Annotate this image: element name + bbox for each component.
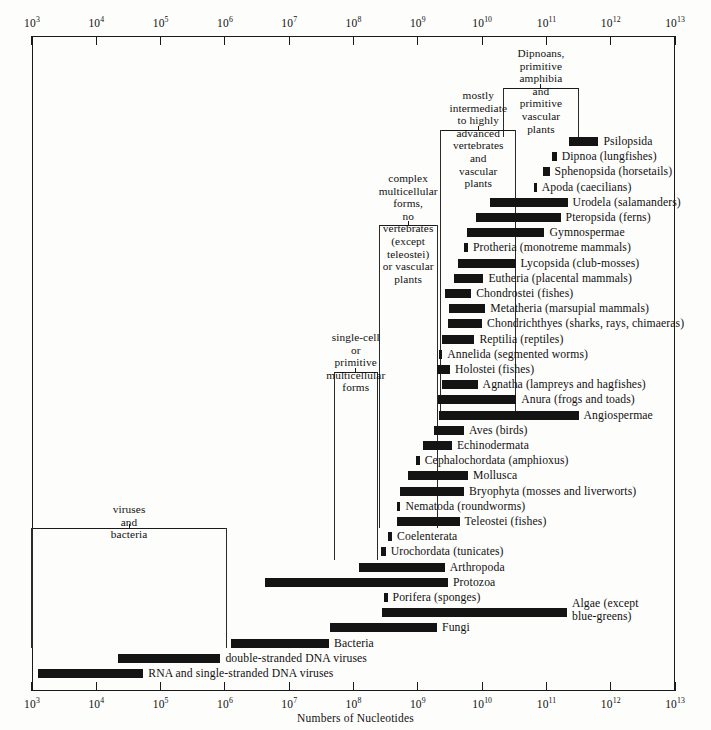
taxon-label: Gymnospermae [549, 227, 624, 238]
axis-label-bottom-1e10: 1010 [472, 697, 492, 710]
range-bar [434, 426, 464, 435]
bracket-stem-right [226, 528, 227, 648]
taxon-label: Bacteria [334, 638, 374, 649]
bracket-label: mostly intermediate to highly advanced v… [449, 89, 507, 190]
axis-label-top-1e6: 106 [217, 16, 233, 29]
axis-label-top-1e5: 105 [153, 16, 169, 29]
axis-label-top-1e9: 109 [410, 16, 426, 29]
taxon-label: Arthropoda [450, 562, 505, 573]
axis-label-top-1e8: 108 [346, 16, 362, 29]
taxon-label: Angiospermae [584, 410, 653, 421]
genome-size-chart: 1031041051061071081091010101110121013 10… [0, 0, 711, 730]
range-bar [464, 243, 468, 252]
range-bar [330, 623, 437, 632]
range-bar [476, 213, 561, 222]
axis-label-top-1e3: 103 [24, 16, 40, 29]
range-bar [382, 608, 567, 617]
axis-label-top-1e12: 1012 [601, 16, 621, 29]
taxon-label: Chondrostei (fishes) [476, 288, 573, 299]
taxon-label: Sphenopsida (horsetails) [555, 166, 673, 177]
range-bar [416, 456, 420, 465]
range-bar [449, 304, 486, 313]
taxon-label: Apoda (caecilians) [542, 182, 632, 193]
range-bar [265, 578, 448, 587]
axis-label-bottom-1e4: 104 [88, 697, 104, 710]
range-bar [454, 274, 483, 283]
range-bar [442, 335, 474, 344]
taxon-label: Bryophyta (mosses and liverworts) [469, 486, 636, 497]
taxon-label: Lycopsida (club-mosses) [521, 258, 640, 269]
axis-label-bottom-1e5: 105 [153, 697, 169, 710]
range-bar [423, 441, 452, 450]
axis-tick-top-1e12 [610, 36, 611, 45]
taxon-label: Nematoda (roundworms) [405, 501, 525, 512]
axis-label-top-1e13: 1013 [665, 16, 685, 29]
axis-tick-top-1e6 [224, 36, 225, 45]
taxon-label: Reptilia (reptiles) [479, 334, 563, 345]
axis-tick-bottom-1e6 [224, 682, 225, 691]
bracket-label: Dipnoans, primitive amphibia and primiti… [517, 47, 564, 135]
taxon-label: Pteropsida (ferns) [566, 212, 651, 223]
taxon-label: Dipnoa (lungfishes) [562, 151, 657, 162]
range-bar [442, 380, 477, 389]
axis-tick-top-1e8 [353, 36, 354, 45]
axis-tick-top-1e4 [96, 36, 97, 45]
axis-label-top-1e4: 104 [88, 16, 104, 29]
axis-label-top-1e10: 1010 [472, 16, 492, 29]
axis-label-bottom-1e9: 109 [410, 697, 426, 710]
taxon-label: Urodela (salamanders) [573, 197, 681, 208]
axis-tick-bottom-1e5 [160, 682, 161, 691]
bracket-stem-right [377, 372, 378, 560]
axis-tick-bottom-1e13 [674, 682, 675, 691]
range-bar [467, 228, 544, 237]
axis-label-bottom-1e8: 108 [346, 697, 362, 710]
bracket-stem-right [578, 88, 579, 137]
range-bar [437, 365, 450, 374]
range-bar [543, 167, 549, 176]
taxon-label: Cephalochordata (amphioxus) [425, 455, 569, 466]
x-axis-title: Numbers of Nucleotides [0, 712, 711, 724]
axis-tick-bottom-1e9 [417, 682, 418, 691]
axis-tick-bottom-1e12 [610, 682, 611, 691]
range-bar [439, 350, 442, 359]
range-bar [490, 198, 568, 207]
bracket-label: single-cell or primitive multicellular f… [326, 331, 385, 394]
range-bar [569, 137, 599, 146]
taxon-label: Urochordata (tunicates) [391, 546, 504, 557]
taxon-label: Fungi [442, 622, 470, 633]
axis-label-bottom-1e6: 106 [217, 697, 233, 710]
taxon-label: Eutheria (placental mammals) [488, 273, 632, 284]
taxon-label: Annelida (segmented worms) [447, 349, 588, 360]
taxon-label: Protheria (monotreme mammals) [473, 242, 631, 253]
taxon-label: Agnatha (lampreys and hagfishes) [483, 379, 646, 390]
taxon-label: Anura (frogs and toads) [521, 394, 635, 405]
taxon-label: double-stranded DNA viruses [225, 653, 367, 664]
range-bar [384, 593, 388, 602]
bracket-stem-left [334, 372, 335, 560]
axis-label-bottom-1e7: 107 [281, 697, 297, 710]
range-bar [388, 532, 393, 541]
taxon-label: Psilopsida [603, 136, 652, 147]
axis-tick-top-1e3 [31, 36, 32, 45]
axis-label-bottom-1e13: 1013 [665, 697, 685, 710]
axis-tick-top-1e9 [417, 36, 418, 45]
taxon-label: Teleostei (fishes) [465, 516, 547, 527]
range-bar [448, 319, 482, 328]
range-bar [552, 152, 557, 161]
bracket-label: complex multicellular forms, no vertebra… [379, 172, 438, 285]
taxon-label: Protozoa [453, 577, 495, 588]
taxon-label: Aves (birds) [469, 425, 527, 436]
range-bar [359, 563, 445, 572]
range-bar [381, 547, 386, 556]
range-bar [38, 669, 143, 678]
axis-label-bottom-1e12: 1012 [601, 697, 621, 710]
taxon-label: Chondrichthyes (sharks, rays, chimaeras) [487, 318, 684, 329]
axis-tick-top-1e5 [160, 36, 161, 45]
axis-label-bottom-1e11: 1011 [537, 697, 556, 710]
axis-tick-top-1e7 [289, 36, 290, 45]
bracket-label: viruses and bacteria [111, 503, 148, 541]
range-bar [458, 259, 516, 268]
axis-tick-bottom-1e11 [546, 682, 547, 691]
taxon-label: Holostei (fishes) [455, 364, 534, 375]
axis-tick-top-1e10 [482, 36, 483, 45]
